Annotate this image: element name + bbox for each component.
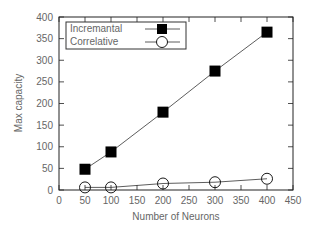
y-tick-label: 200	[36, 98, 53, 109]
x-axis-label: Number of Neurons	[132, 211, 219, 222]
filled-square-icon	[157, 24, 167, 34]
x-tick-label: 250	[181, 195, 198, 206]
y-tick-label: 250	[36, 76, 53, 87]
data-point	[262, 27, 273, 38]
legend-label-incremantal: Incremantal	[70, 23, 122, 34]
y-tick-label: 150	[36, 120, 53, 131]
x-tick-label: 150	[129, 195, 146, 206]
y-tick-label: 50	[42, 163, 54, 174]
y-tick-label: 100	[36, 141, 53, 152]
y-tick-label: 400	[36, 12, 53, 23]
x-tick-label: 0	[56, 195, 62, 206]
y-tick-label: 0	[47, 185, 53, 196]
y-tick-label: 350	[36, 33, 53, 44]
y-axis-label: Max capacity	[13, 74, 24, 132]
legend: Incremantal Correlative	[66, 22, 186, 49]
x-tick-label: 200	[155, 195, 172, 206]
open-circle-icon	[157, 37, 168, 48]
x-tick-label: 50	[79, 195, 91, 206]
y-tick-label: 300	[36, 55, 53, 66]
x-tick-label: 300	[207, 195, 224, 206]
x-tick-label: 350	[233, 195, 250, 206]
data-point	[80, 164, 91, 175]
x-tick-label: 450	[285, 195, 302, 206]
data-point	[210, 66, 221, 77]
data-series	[80, 27, 273, 193]
data-point	[158, 107, 169, 118]
line-chart: 050100150200250300350400450 050100150200…	[0, 0, 314, 233]
data-point	[106, 146, 117, 157]
x-tick-label: 100	[103, 195, 120, 206]
legend-label-correlative: Correlative	[70, 36, 119, 47]
x-tick-label: 400	[259, 195, 276, 206]
